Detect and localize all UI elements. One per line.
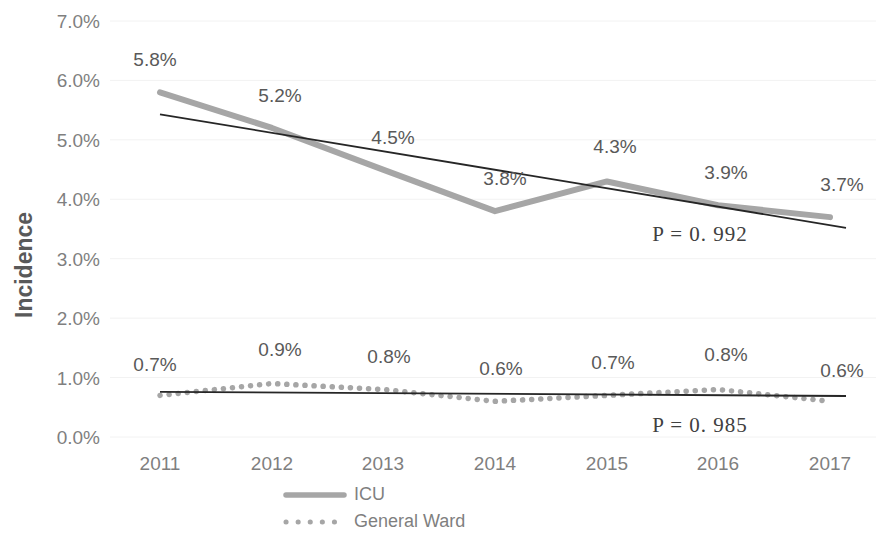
x-tick-label-2015: 2015 [586,453,628,474]
p-value-icu: P = 0. 992 [652,222,748,246]
y-tick-label: 3.0% [57,249,100,270]
y-tick-label: 4.0% [57,189,100,210]
data-label-icu-2012: 5.2% [258,85,301,106]
data-label-general-ward-2013: 0.8% [367,346,410,367]
chart-canvas: 0.0%1.0%2.0%3.0%4.0%5.0%6.0%7.0% 2011201… [0,0,881,541]
x-tick-label-2014: 2014 [474,453,517,474]
x-tick-label-2017: 2017 [809,453,851,474]
y-axis-title: Incidence [11,212,37,318]
incidence-trend-chart: 0.0%1.0%2.0%3.0%4.0%5.0%6.0%7.0% 2011201… [0,0,881,541]
x-axis-tick-labels: 2011201220132014201520162017 [140,453,852,474]
p-value-general-ward: P = 0. 985 [652,413,748,437]
legend-label-general-ward: General Ward [354,511,465,531]
data-label-general-ward-2015: 0.7% [591,352,634,373]
legend-label-icu: ICU [354,484,385,504]
chart-legend: ICUGeneral Ward [286,484,465,531]
data-label-general-ward-2012: 0.9% [258,339,301,360]
y-tick-label: 5.0% [57,130,100,151]
y-axis-tick-labels: 0.0%1.0%2.0%3.0%4.0%5.0%6.0%7.0% [57,11,100,448]
y-tick-label: 7.0% [57,11,100,32]
data-label-general-ward-2011: 0.7% [133,354,176,375]
data-label-icu-2017: 3.7% [820,174,863,195]
data-label-icu-2016: 3.9% [704,162,747,183]
series-line-icu [160,92,830,217]
data-point-labels: 5.8%5.2%4.5%3.8%4.3%3.9%3.7%0.7%0.9%0.8%… [133,49,863,381]
x-tick-label-2016: 2016 [697,453,739,474]
data-label-icu-2011: 5.8% [133,49,176,70]
x-tick-label-2011: 2011 [140,453,181,474]
data-label-general-ward-2014: 0.6% [479,358,522,379]
p-value-annotations: P = 0. 992P = 0. 985 [652,222,748,437]
y-tick-label: 0.0% [57,427,100,448]
data-label-icu-2014: 3.8% [483,168,526,189]
y-tick-label: 1.0% [57,368,100,389]
data-label-general-ward-2016: 0.8% [704,344,747,365]
x-tick-label-2013: 2013 [362,453,404,474]
y-tick-label: 2.0% [57,308,100,329]
y-tick-label: 6.0% [57,70,100,91]
data-label-icu-2015: 4.3% [593,136,636,157]
data-label-icu-2013: 4.5% [371,127,414,148]
x-tick-label-2012: 2012 [251,453,293,474]
data-label-general-ward-2017: 0.6% [820,360,863,381]
